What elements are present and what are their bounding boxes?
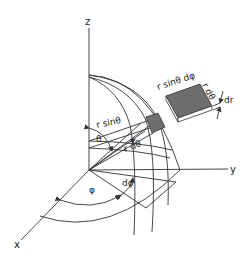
- z-axis-label: z: [85, 16, 90, 27]
- spherical-coordinates-diagram: z y x θ φ dφ r sinθ r dθ r sinθ dφ r dθ …: [0, 0, 251, 260]
- theta-label: θ: [96, 134, 102, 144]
- phi-label: φ: [89, 185, 95, 195]
- projection-line-2: [89, 170, 146, 208]
- meridian-arc-2: [89, 77, 153, 232]
- phi-arc: [60, 196, 120, 205]
- dr-arrow-top: [220, 91, 223, 103]
- equator-arc: [40, 170, 180, 222]
- meridian-arc-3: [89, 77, 135, 235]
- dr-arrow-bottom: [217, 107, 220, 119]
- detached-thickness-label: dr: [224, 95, 234, 105]
- y-axis-label: y: [230, 164, 236, 175]
- dr-tick-1: [213, 103, 220, 106]
- x-axis-label: x: [14, 239, 20, 250]
- r-sin-theta-label: r sinθ: [95, 115, 122, 130]
- dphi-label: dφ: [122, 178, 134, 188]
- y-axis: [89, 169, 228, 170]
